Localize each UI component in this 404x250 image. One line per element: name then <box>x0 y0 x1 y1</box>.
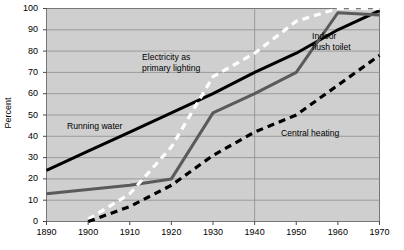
x-tick-label: 1890 <box>25 228 69 237</box>
x-tick-label: 1960 <box>316 228 360 237</box>
y-tick-label: 20 <box>2 174 38 183</box>
y-tick-label: 90 <box>2 25 38 34</box>
y-tick-label: 10 <box>2 196 38 205</box>
y-tick-label: 60 <box>2 89 38 98</box>
y-tick-label: 50 <box>2 111 38 120</box>
y-tick-label: 40 <box>2 132 38 141</box>
x-tick-label: 1970 <box>358 228 402 237</box>
series-annotation: Electricity as primary lighting <box>142 52 200 73</box>
x-tick-label: 1930 <box>191 228 235 237</box>
series-annotation: Indoor flush toilet <box>312 31 351 52</box>
x-tick-label: 1900 <box>66 228 110 237</box>
y-tick-label: 80 <box>2 47 38 56</box>
x-tick-label: 1910 <box>108 228 152 237</box>
y-tick-label: 0 <box>2 217 38 226</box>
y-tick-label: 30 <box>2 153 38 162</box>
x-tick-label: 1950 <box>274 228 318 237</box>
series-annotation: Central heating <box>281 128 339 139</box>
x-tick-label: 1940 <box>233 228 277 237</box>
x-tick-label: 1920 <box>149 228 193 237</box>
chart-container: Percent 0102030405060708090100 189019001… <box>0 0 404 250</box>
series-annotation: Running water <box>67 121 122 132</box>
y-tick-label: 100 <box>2 4 38 13</box>
y-tick-label: 70 <box>2 68 38 77</box>
